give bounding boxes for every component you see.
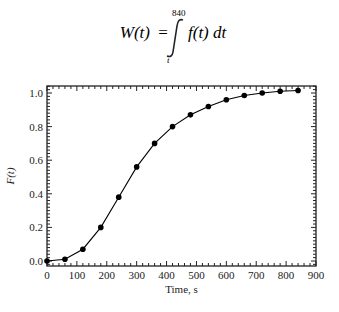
- x-tick-label: 300: [128, 269, 145, 281]
- x-tick-label: 200: [99, 269, 116, 281]
- y-tick-label: 0.4: [29, 188, 43, 200]
- y-tick-label: 0.2: [29, 221, 43, 233]
- data-point: [44, 258, 50, 264]
- data-point: [62, 257, 68, 263]
- data-point: [152, 141, 158, 147]
- data-point: [134, 164, 140, 170]
- x-tick-label: 600: [218, 269, 235, 281]
- data-point: [295, 88, 301, 94]
- x-tick-label: 400: [158, 269, 175, 281]
- data-point: [80, 246, 86, 252]
- x-tick-label: 500: [188, 269, 205, 281]
- y-tick-label: 0.0: [29, 255, 43, 267]
- data-point: [188, 112, 194, 118]
- data-point: [224, 97, 230, 103]
- x-tick-label: 900: [308, 269, 325, 281]
- data-point: [206, 104, 212, 110]
- data-point: [98, 225, 104, 231]
- x-tick-label: 700: [248, 269, 265, 281]
- y-axis-label: F(t): [4, 167, 17, 185]
- data-point: [259, 90, 265, 96]
- data-point: [116, 194, 122, 200]
- x-tick-label: 800: [278, 269, 295, 281]
- x-tick-label: 100: [69, 269, 86, 281]
- line-chart: 01002003004005006007008009000.00.20.40.6…: [0, 0, 339, 312]
- data-point: [277, 89, 283, 95]
- y-tick-label: 0.8: [29, 121, 43, 133]
- x-axis-label: Time, s: [165, 283, 198, 295]
- series-line: [47, 91, 298, 262]
- y-tick-label: 0.6: [29, 154, 43, 166]
- x-tick-label: 0: [44, 269, 50, 281]
- data-point: [241, 93, 247, 99]
- plot-frame: [47, 86, 316, 266]
- data-point: [170, 124, 176, 130]
- y-tick-label: 1.0: [29, 87, 43, 99]
